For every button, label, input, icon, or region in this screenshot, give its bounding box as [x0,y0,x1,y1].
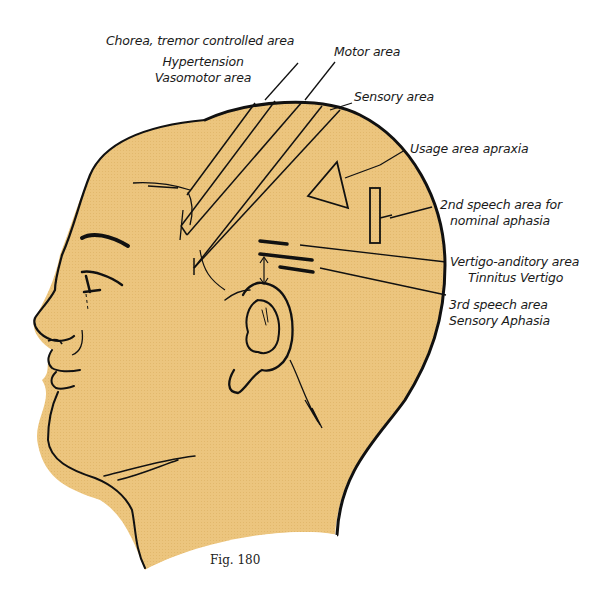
label-vertigo: Vertigo-anditory area Tinnitus Vertigo [450,254,579,286]
label-hypertension: Hypertension Vasomotor area [148,54,258,86]
label-speech3: 3rd speech area Sensory Aphasia [449,297,550,329]
label-chorea: Chorea, tremor controlled area [106,33,294,49]
figure-caption: Fig. 180 [210,553,260,567]
label-speech3-line2: Sensory Aphasia [449,313,550,329]
label-speech2: 2nd speech area for nominal aphasia [440,197,562,229]
label-usage: Usage area apraxia [410,141,528,157]
head-silhouette [34,102,445,570]
label-hypertension-line1: Hypertension [148,54,258,70]
label-speech2-line1: 2nd speech area for [440,197,562,213]
label-hypertension-line2: Vasomotor area [148,70,258,86]
label-motor: Motor area [334,44,400,60]
label-sensory: Sensory area [354,89,434,105]
label-vertigo-line1: Vertigo-anditory area [450,254,579,270]
label-speech2-line2: nominal aphasia [440,213,562,229]
label-speech3-line1: 3rd speech area [449,297,550,313]
label-vertigo-line2: Tinnitus Vertigo [450,270,579,286]
